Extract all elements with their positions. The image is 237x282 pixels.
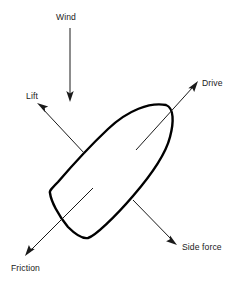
lift-arrow-shaft	[42, 108, 85, 154]
drive-arrow-shaft	[136, 87, 193, 150]
vector-side-force	[133, 200, 177, 245]
force-diagram: Wind Lift Drive Side force Friction	[0, 0, 237, 282]
vector-drive	[136, 81, 198, 150]
vector-wind	[66, 28, 73, 102]
vector-friction	[25, 188, 93, 256]
vector-lift	[37, 103, 85, 154]
label-friction: Friction	[11, 263, 40, 273]
label-drive: Drive	[202, 78, 223, 88]
label-wind: Wind	[56, 12, 76, 22]
label-lift: Lift	[26, 91, 38, 101]
side-force-arrow-head	[166, 235, 177, 245]
friction-arrow-shaft	[31, 188, 93, 250]
label-side-force: Side force	[182, 242, 222, 252]
lift-arrow-head	[37, 103, 48, 112]
boat-hull-outline	[50, 104, 173, 238]
friction-arrow-head	[25, 245, 35, 256]
force-diagram-canvas: Wind Lift Drive Side force Friction	[0, 0, 237, 282]
side-force-arrow-shaft	[133, 200, 172, 240]
